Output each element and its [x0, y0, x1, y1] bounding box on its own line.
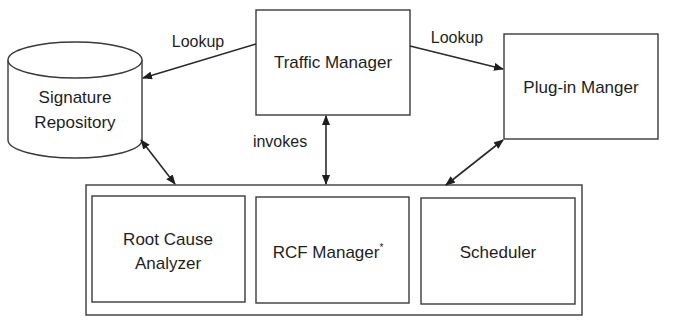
rcf-manager-node: RCF Manager*: [256, 197, 409, 303]
rcf-manager-label-text: RCF Manager: [273, 243, 380, 262]
rcf-manager-superscript: *: [379, 242, 383, 253]
lookup-right-label: Lookup: [431, 29, 484, 46]
edge-tm-to-plugin-manager: Lookup: [410, 29, 503, 69]
root-cause-analyzer-node: Root Cause Analyzer: [92, 196, 245, 302]
plugin-manager-label: Plug-in Manger: [523, 78, 639, 97]
arrow-plugin-container: [446, 140, 503, 185]
scheduler-label: Scheduler: [460, 243, 537, 262]
edge-plugin-manager-container: [446, 140, 503, 185]
lookup-left-label: Lookup: [172, 33, 225, 50]
root-cause-analyzer-label-line2: Analyzer: [135, 254, 201, 273]
rcf-manager-label: RCF Manager*: [273, 242, 384, 262]
arrow-repo-container: [141, 140, 175, 184]
root-cause-analyzer-label-line1: Root Cause: [123, 230, 213, 249]
signature-repository-node: Signature Repository: [8, 42, 142, 158]
architecture-diagram: Signature Repository Traffic Manager Plu…: [0, 0, 673, 336]
invokes-label: invokes: [253, 133, 307, 150]
plugin-manager-node: Plug-in Manger: [504, 34, 658, 139]
traffic-manager-label: Traffic Manager: [274, 53, 392, 72]
component-container: Root Cause Analyzer RCF Manager* Schedul…: [86, 185, 582, 315]
signature-repository-label-line1: Signature: [39, 88, 112, 107]
edge-tm-invokes-container: invokes: [253, 116, 326, 184]
traffic-manager-node: Traffic Manager: [256, 10, 410, 115]
scheduler-node: Scheduler: [421, 198, 575, 304]
arrow-lookup-right: [410, 46, 503, 69]
edge-signature-repo-container: [141, 140, 175, 184]
signature-repository-label-line2: Repository: [34, 113, 116, 132]
edge-tm-to-signature-repo: Lookup: [143, 33, 256, 78]
